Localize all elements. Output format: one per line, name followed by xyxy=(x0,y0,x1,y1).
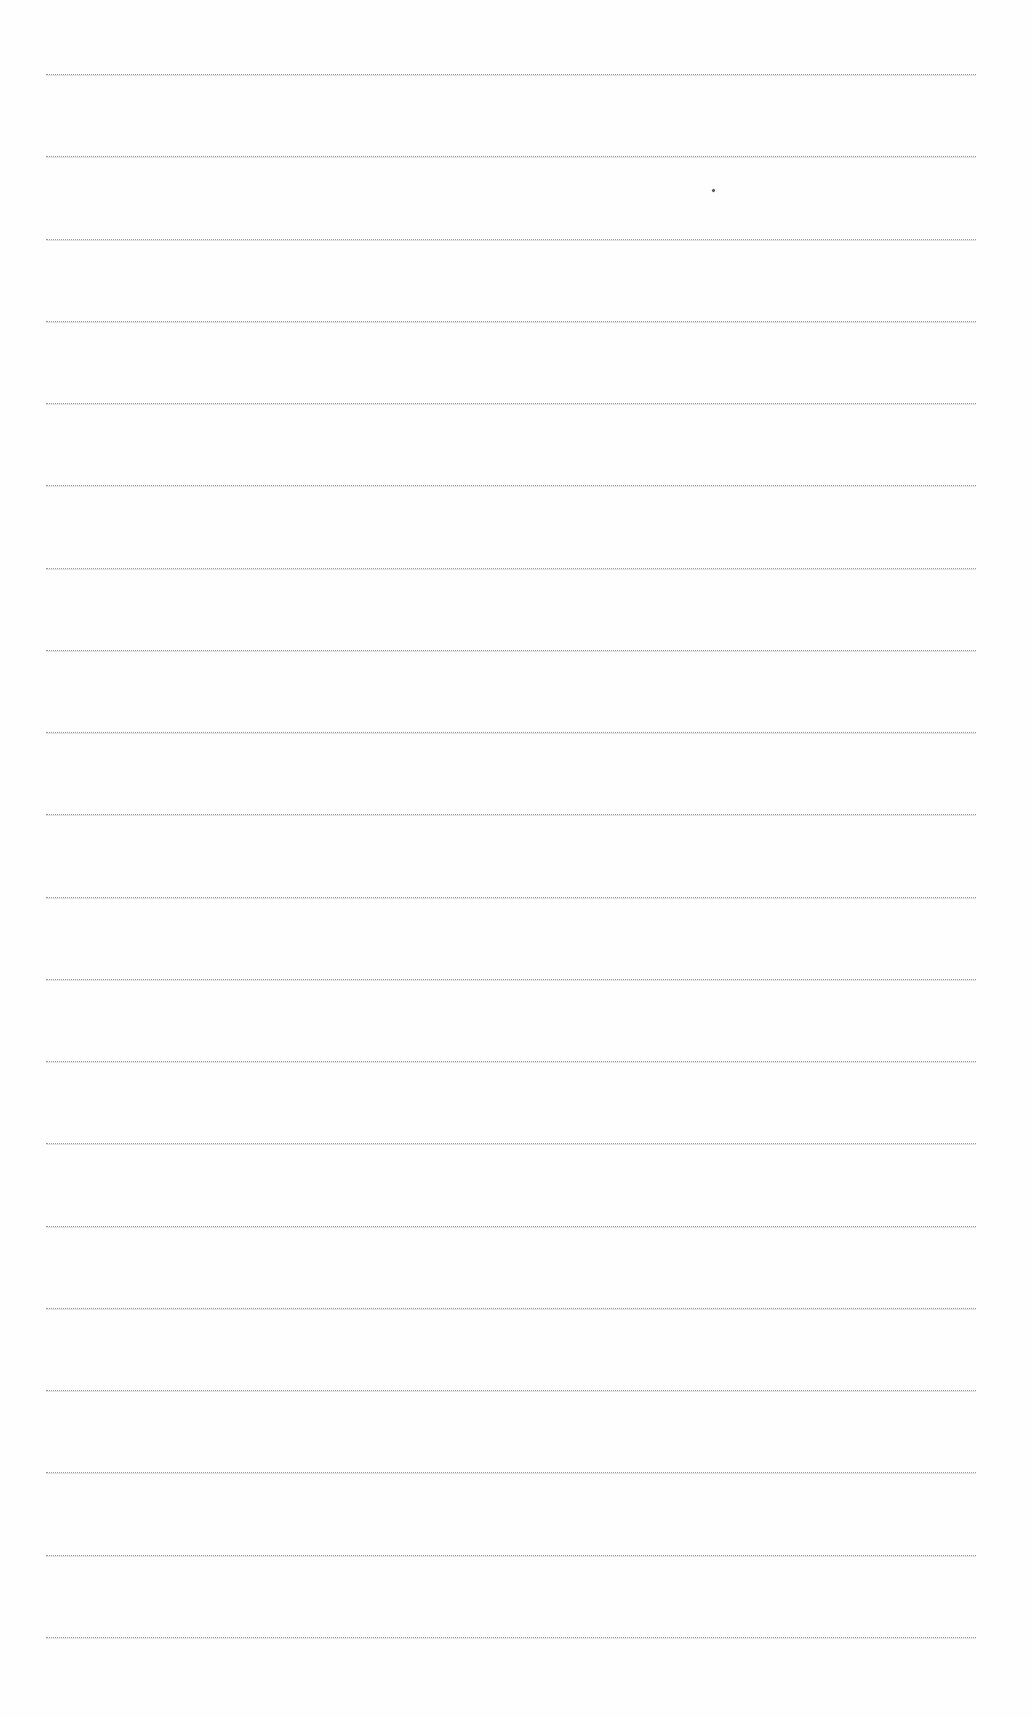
ruled-line xyxy=(46,403,976,404)
ruled-line xyxy=(46,979,976,980)
ruled-line xyxy=(46,1555,976,1556)
ruled-line xyxy=(46,156,976,157)
lined-paper-page xyxy=(0,0,1033,1718)
ruled-line xyxy=(46,1226,976,1227)
ruled-line xyxy=(46,568,976,569)
ruled-line xyxy=(46,897,976,898)
ruled-line xyxy=(46,814,976,815)
ruled-line xyxy=(46,650,976,651)
ruled-line xyxy=(46,74,976,75)
ruled-line xyxy=(46,1061,976,1062)
ruled-line xyxy=(46,321,976,322)
ruled-line xyxy=(46,485,976,486)
ruled-line xyxy=(46,1143,976,1144)
ruled-line xyxy=(46,1637,976,1638)
ruled-line xyxy=(46,1390,976,1391)
ruled-line xyxy=(46,1472,976,1473)
ruled-line xyxy=(46,239,976,240)
ink-speck xyxy=(711,188,715,192)
ruled-line xyxy=(46,1308,976,1309)
ruled-line xyxy=(46,732,976,733)
